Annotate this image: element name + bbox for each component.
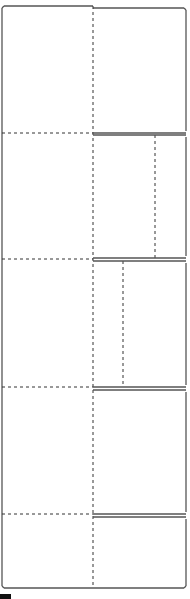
cut-line-corner-4 xyxy=(184,586,186,588)
cut-line-corner-2 xyxy=(184,8,186,10)
dieline-diagram xyxy=(0,0,190,599)
corner-marker xyxy=(0,594,11,599)
cut-line-corner-1 xyxy=(2,6,4,8)
cut-line-corner-3 xyxy=(2,586,4,588)
